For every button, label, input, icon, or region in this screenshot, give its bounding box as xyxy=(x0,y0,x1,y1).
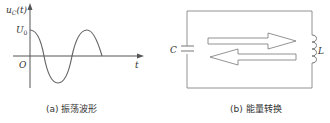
arrow-left xyxy=(210,49,296,65)
waveform-labels: uC(t) U0 O t xyxy=(6,5,139,70)
caption-waveform: (a) 振荡波形 xyxy=(46,102,97,115)
svg-text:O: O xyxy=(19,60,27,70)
circuit-wire xyxy=(187,11,312,46)
waveform-plot xyxy=(13,3,144,88)
lc-circuit xyxy=(181,11,317,88)
caption-energy: (b) 能量转换 xyxy=(230,102,282,115)
circuit-wire-bottom xyxy=(187,54,312,88)
y-axis-arrow xyxy=(28,3,33,10)
svg-text:uC(t): uC(t) xyxy=(6,5,28,16)
svg-text:t: t xyxy=(135,60,139,70)
svg-text:C: C xyxy=(170,45,177,55)
arrow-right xyxy=(208,33,296,49)
x-axis-arrow xyxy=(137,54,144,59)
svg-text:L: L xyxy=(317,46,324,56)
inductor-coil xyxy=(312,35,317,63)
svg-text:U0: U0 xyxy=(16,25,28,36)
